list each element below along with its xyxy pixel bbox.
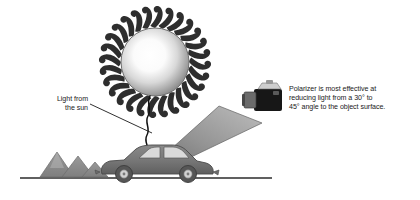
polarizer-note: Polarizer is most effective at reducing … xyxy=(289,85,415,112)
camera-lens-hood xyxy=(242,94,245,106)
camera-shutter-button xyxy=(273,91,279,95)
car-rear-wheel xyxy=(180,166,197,183)
camera-viewfinder xyxy=(266,80,273,84)
car-front-wheel xyxy=(116,166,133,183)
sun-disc xyxy=(121,28,189,96)
sun-label: Light from the sun xyxy=(12,95,88,113)
diagram-canvas: Light from the sun Polarizer is most eff… xyxy=(0,0,420,200)
car-rear-bumper xyxy=(213,170,219,175)
sun xyxy=(99,6,212,119)
camera xyxy=(242,80,282,111)
sun-label-leader-line xyxy=(90,104,152,133)
camera-lens xyxy=(244,92,256,108)
